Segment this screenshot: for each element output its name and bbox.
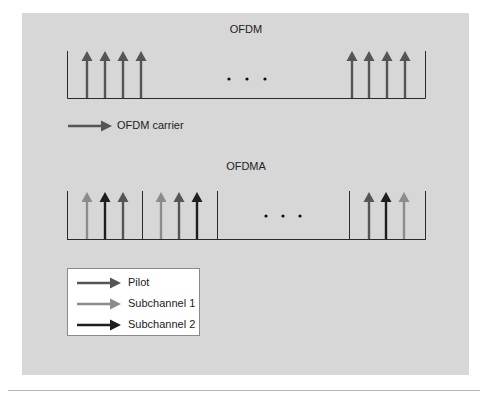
legend-box: Pilot Subchannel 1 Subchannel 2 (67, 268, 200, 336)
pilot-arrow-icon (76, 277, 126, 289)
subchannel-2-arrow-icon (100, 192, 111, 239)
ofdma-subcarrier-arrows (82, 192, 410, 239)
legend-item-subchannel-1: Subchannel 1 (68, 296, 199, 312)
subchannel-2-arrow-icon (381, 192, 392, 239)
subchannel-1-arrow-icon (76, 298, 126, 310)
ofdm-spectrum-diagram (0, 0, 486, 401)
ofdm-carrier-label: OFDM carrier (117, 119, 184, 131)
subchannel-2-arrow-icon (192, 192, 203, 239)
ofdm-carrier-arrow-icon (400, 51, 411, 98)
ofdm-carrier-arrow-icon (136, 51, 147, 98)
subchannel-1-arrow-icon (156, 192, 167, 239)
subchannel-2-arrow-icon (76, 319, 126, 331)
pilot-arrow-icon (364, 192, 375, 239)
ofdm-ellipsis-icon (227, 77, 266, 80)
legend-item-subchannel-2: Subchannel 2 (68, 317, 199, 333)
ofdm-carrier-arrows (82, 51, 411, 98)
legend-label-pilot: Pilot (128, 276, 149, 288)
ofdm-carrier-arrow-icon (100, 51, 111, 98)
ofdm-carrier-arrow-icon (347, 51, 358, 98)
ofdm-carrier-arrow-icon (364, 51, 375, 98)
pilot-arrow-icon (118, 192, 129, 239)
ofdma-ellipsis-icon (264, 214, 301, 217)
pilot-arrow-icon (174, 192, 185, 239)
ofdm-carrier-key-arrow-icon (68, 121, 112, 132)
legend-label-subchannel-2: Subchannel 2 (128, 318, 195, 330)
subchannel-1-arrow-icon (399, 192, 410, 239)
legend-item-pilot: Pilot (68, 275, 199, 291)
ofdm-carrier-arrow-icon (382, 51, 393, 98)
ofdm-carrier-arrow-icon (118, 51, 129, 98)
bottom-divider (8, 390, 480, 391)
ofdma-title: OFDMA (216, 160, 276, 172)
subchannel-1-arrow-icon (82, 192, 93, 239)
ofdm-carrier-arrow-icon (82, 51, 93, 98)
legend-label-subchannel-1: Subchannel 1 (128, 297, 195, 309)
